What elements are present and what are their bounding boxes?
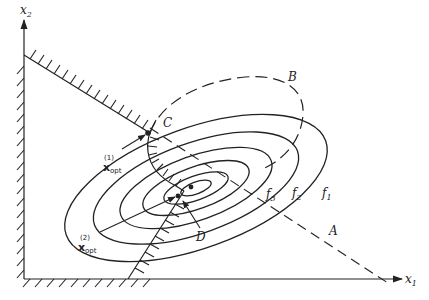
contour-f3 [110,131,282,246]
arrow-to-optimum-1 [122,135,145,149]
label-f2: f2 [291,186,302,202]
unconstrained-minimum [189,185,194,190]
contour-5 [160,165,232,211]
label-f1: f1 [321,186,332,202]
svg-text:opt: opt [110,167,122,175]
x1-axis-label: x1 [405,272,417,288]
dashed-curve-B [150,77,303,170]
x2-axis-label: x2 [20,3,32,19]
constraint-bottom-wall [23,279,150,287]
optimum-1-point [145,130,151,136]
label-xopt-1: (1) x opt [103,154,122,175]
contour-4 [136,149,256,227]
objective-contours [46,84,346,291]
label-B: B [287,70,297,84]
label-C: C [163,116,172,130]
label-f3: f3 [265,187,276,203]
contour-f1 [46,84,346,291]
svg-text:opt: opt [85,247,97,255]
label-xopt-2: (2) x opt [78,234,97,255]
constraint-left-wall [17,66,24,278]
label-A: A [328,224,338,238]
label-D: D [195,230,206,244]
constraint-upper-line [24,50,150,133]
optimization-diagram: x2 x1 [0,0,429,300]
optimum-2-point [176,194,181,199]
